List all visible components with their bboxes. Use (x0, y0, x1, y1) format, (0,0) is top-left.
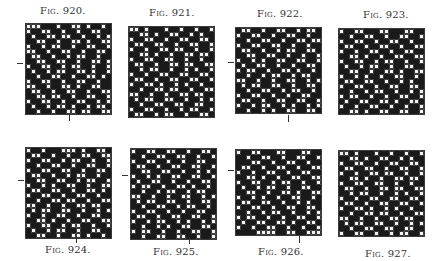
column-marker-tick (189, 237, 190, 244)
weave-grid-fig920 (25, 23, 112, 115)
figure-caption: Fig. 925. (153, 246, 199, 257)
weave-grid-fig923 (338, 28, 425, 115)
figure-caption: Fig. 920. (40, 5, 86, 16)
row-marker-tick (18, 180, 24, 181)
filled-square (316, 108, 321, 113)
weave-grid-fig927 (338, 150, 425, 237)
weave-grid-fig924 (25, 147, 112, 239)
figure-caption: Fig. 926. (258, 246, 304, 257)
column-marker-tick (299, 236, 300, 243)
open-square (419, 231, 424, 236)
weave-grid-fig922 (235, 27, 322, 114)
weave-grid-fig926 (235, 149, 322, 236)
figure-caption: Fig. 924. (45, 244, 91, 255)
open-square (211, 234, 216, 239)
weave-grid-fig925 (130, 148, 217, 240)
open-square (419, 109, 424, 114)
row-marker-tick (122, 175, 128, 176)
column-marker-tick (288, 115, 289, 122)
row-marker-tick (228, 62, 234, 63)
figure-caption: Fig. 922. (257, 8, 303, 19)
weave-grid-fig921 (128, 26, 215, 118)
open-square (316, 230, 321, 235)
column-marker-tick (76, 236, 77, 243)
column-marker-tick (69, 114, 70, 121)
filled-square (209, 112, 214, 117)
row-marker-tick (228, 170, 234, 171)
figure-caption: Fig. 927. (365, 248, 411, 259)
figure-caption: Fig. 923. (363, 9, 409, 20)
filled-square (106, 233, 111, 238)
figure-caption: Fig. 921. (149, 7, 195, 18)
open-square (106, 109, 111, 114)
row-marker-tick (17, 63, 23, 64)
